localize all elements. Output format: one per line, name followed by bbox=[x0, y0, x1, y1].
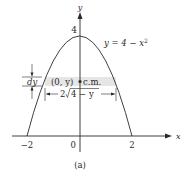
width-arrow-right-icon bbox=[111, 93, 116, 96]
width-label-prefix: 2 bbox=[60, 89, 65, 99]
tick-label-x-2: 2 bbox=[129, 140, 134, 150]
width-label-radicand: 4 − y bbox=[71, 89, 94, 99]
x-axis-arrow-icon bbox=[165, 134, 172, 139]
diagram-canvas: y x 4 −2 0 2 y = 4 − x2 dy (0, y) c.m. 2… bbox=[0, 0, 188, 180]
figure-caption: (a) bbox=[74, 160, 86, 170]
tick-label-y-4: 4 bbox=[71, 25, 77, 35]
dy-arrow-up-icon bbox=[31, 86, 34, 91]
point-label: (0, y) bbox=[51, 77, 73, 87]
y-axis-label: y bbox=[77, 3, 83, 12]
parabola-strip-diagram: y x 4 −2 0 2 y = 4 − x2 dy (0, y) c.m. 2… bbox=[0, 0, 188, 180]
y-axis-arrow-icon bbox=[78, 12, 83, 19]
width-arrow-left-icon bbox=[46, 93, 51, 96]
dy-label: dy bbox=[27, 77, 37, 87]
x-axis-label: x bbox=[176, 132, 181, 141]
tick-label-x-neg2: −2 bbox=[21, 140, 34, 150]
curve-equation-label: y = 4 − x2 bbox=[103, 37, 148, 49]
tick-label-x-0: 0 bbox=[71, 140, 76, 150]
center-of-mass-label: c.m. bbox=[83, 77, 101, 87]
center-of-mass-dot bbox=[78, 80, 81, 83]
